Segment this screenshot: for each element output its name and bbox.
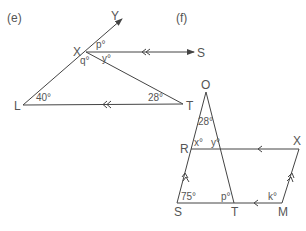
angle-p: p° bbox=[221, 191, 231, 202]
point-X: X bbox=[293, 134, 301, 148]
figure-f-label: (f) bbox=[176, 11, 187, 25]
point-T: T bbox=[231, 205, 239, 219]
angle-y: y° bbox=[102, 53, 111, 64]
point-S: S bbox=[197, 46, 205, 60]
line-XT bbox=[86, 52, 183, 104]
figure-e-label: (e) bbox=[7, 11, 22, 25]
figure-f: (f) O R X S T M 28° x° y° 75° p° k° bbox=[174, 11, 301, 219]
point-R: R bbox=[180, 142, 189, 156]
parallel-marker-icon bbox=[182, 173, 189, 182]
line-XM bbox=[282, 149, 299, 203]
angle-S: 75° bbox=[181, 191, 196, 202]
point-M: M bbox=[278, 205, 288, 219]
angle-k: k° bbox=[268, 191, 277, 202]
geometry-figures: (e) Y X S L T p° q° y° 40° 28° (f) bbox=[0, 0, 306, 231]
angle-p: p° bbox=[96, 39, 106, 50]
angle-L: 40° bbox=[36, 92, 51, 103]
angle-q: q° bbox=[80, 55, 90, 66]
point-O: O bbox=[201, 78, 210, 92]
point-Y: Y bbox=[111, 9, 119, 23]
point-T: T bbox=[186, 99, 194, 113]
angle-T: 28° bbox=[148, 92, 163, 103]
parallel-marker-icon bbox=[287, 173, 294, 182]
point-S: S bbox=[174, 205, 182, 219]
point-L: L bbox=[14, 99, 21, 113]
angle-O: 28° bbox=[198, 116, 213, 127]
angle-y: y° bbox=[211, 137, 220, 148]
angle-x: x° bbox=[194, 137, 203, 148]
